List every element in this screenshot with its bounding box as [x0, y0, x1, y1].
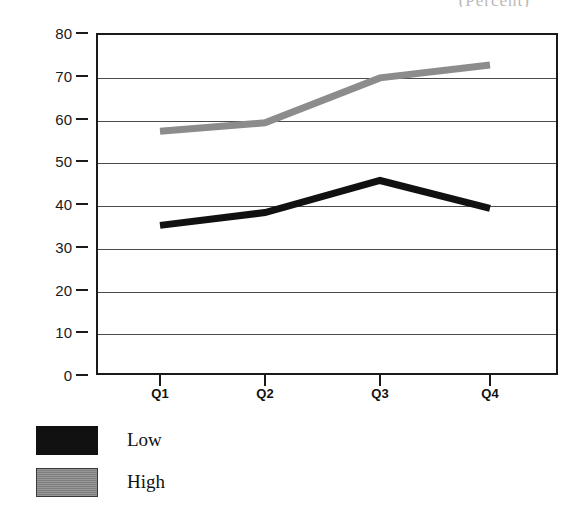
y-axis-tick	[76, 331, 88, 333]
y-axis-tick-label: 40	[55, 196, 72, 213]
legend-item[interactable]: High	[36, 461, 296, 503]
black-swatch	[36, 426, 98, 455]
gridline	[98, 249, 556, 250]
y-axis-tick-label: 50	[55, 153, 72, 170]
x-axis-tick	[264, 375, 266, 386]
gridline	[98, 78, 556, 79]
x-axis-tick-label: Q4	[481, 386, 498, 401]
y-axis-tick-label: 0	[64, 367, 72, 384]
y-axis-tick-label: 10	[55, 324, 72, 341]
gridline	[98, 292, 556, 293]
y-axis-tick	[76, 374, 88, 376]
x-axis-tick-label: Q2	[256, 386, 273, 401]
y-axis-tick-label: 20	[55, 281, 72, 298]
y-axis-tick	[76, 75, 88, 77]
gray-swatch	[36, 468, 98, 497]
gridline	[98, 163, 556, 164]
y-axis-tick	[76, 32, 88, 34]
legend-item[interactable]: Low	[36, 419, 296, 461]
y-axis-tick	[76, 160, 88, 162]
y-axis-tick-label: 60	[55, 110, 72, 127]
x-axis-tick-label: Q1	[151, 386, 168, 401]
y-axis-tick	[76, 203, 88, 205]
x-axis-tick-label: Q3	[371, 386, 388, 401]
y-axis-tick	[76, 246, 88, 248]
plot-area	[96, 33, 558, 375]
gridline	[98, 334, 556, 335]
y-axis-tick-label: 80	[55, 25, 72, 42]
x-axis-tick	[379, 375, 381, 386]
x-axis-tick	[159, 375, 161, 386]
y-axis-tick	[76, 118, 88, 120]
y-axis: 01020304050607080	[0, 0, 96, 420]
y-axis-tick-label: 30	[55, 238, 72, 255]
legend-item-label: High	[127, 471, 165, 493]
gridline	[98, 206, 556, 207]
legend-item-label: Low	[127, 429, 162, 451]
y-axis-tick-label: 70	[55, 67, 72, 84]
chart-figure: (Percent) 01020304050607080 Q1Q2Q3Q4 Low…	[0, 0, 582, 530]
y-axis-tick	[76, 289, 88, 291]
x-axis-tick	[489, 375, 491, 386]
gridline	[98, 121, 556, 122]
chart-legend: LowHigh	[36, 419, 296, 503]
